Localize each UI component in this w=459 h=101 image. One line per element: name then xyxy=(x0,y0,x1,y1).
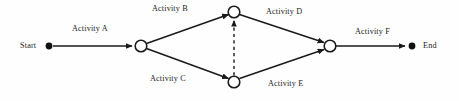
edge-label-activity-e: Activity E xyxy=(268,79,303,89)
start-node-dot xyxy=(46,43,53,50)
event-node-3 xyxy=(228,76,240,88)
end-node-dot xyxy=(409,43,416,50)
edge-activity-d xyxy=(240,15,325,43)
edge-label-activity-a: Activity A xyxy=(72,24,108,34)
edge-label-activity-d: Activity D xyxy=(266,7,302,17)
edge-label-activity-f: Activity F xyxy=(355,27,390,37)
edge-activity-e xyxy=(240,50,325,79)
network-canvas xyxy=(0,0,459,101)
edge-activity-b xyxy=(147,15,229,44)
edge-label-activity-b: Activity B xyxy=(152,4,188,14)
event-node-4 xyxy=(324,40,336,52)
event-node-2 xyxy=(228,6,240,18)
end-label: End xyxy=(423,41,437,51)
event-node-1 xyxy=(135,40,147,52)
activity-network-diagram: Start End Activity A Activity B Activity… xyxy=(0,0,459,101)
start-label: Start xyxy=(20,41,36,51)
edge-label-activity-c: Activity C xyxy=(150,74,186,84)
